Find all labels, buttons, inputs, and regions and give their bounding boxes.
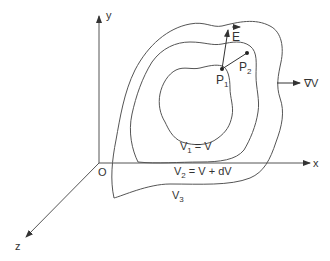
- p2-label: P2: [239, 60, 252, 76]
- v3-label: V3: [172, 189, 184, 204]
- y-axis-label: y: [106, 9, 112, 21]
- point-p2: [245, 51, 249, 55]
- gradient-label: ∇V: [303, 77, 319, 89]
- x-axis-label: x: [313, 157, 319, 169]
- p1-label: P1: [216, 73, 229, 89]
- z-axis: [26, 163, 99, 237]
- z-axis-label: z: [15, 240, 21, 252]
- axes: [26, 16, 310, 237]
- origin-label: O: [98, 166, 107, 178]
- labels: y x z O E ∇V P1 P2 V1 = V V2 = V + dV V3: [15, 9, 319, 252]
- v1-label: V1 = V: [180, 140, 212, 155]
- e-field-vector: [222, 30, 228, 69]
- v2-label: V2 = V + dV: [174, 165, 232, 180]
- point-p1: [220, 67, 224, 71]
- equipotential-diagram: y x z O E ∇V P1 P2 V1 = V V2 = V + dV V3: [0, 0, 330, 261]
- e-field-label: E: [232, 30, 240, 44]
